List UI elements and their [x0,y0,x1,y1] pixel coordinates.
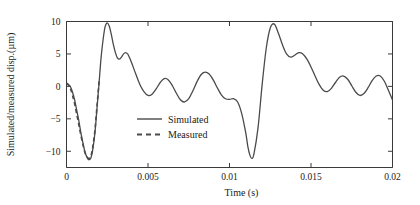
chart-background [0,0,420,205]
x-tick-label: 0 [64,172,69,182]
chart-figure: 00.0050.010.0150.02 −10−50510 SimulatedM… [0,0,420,205]
x-tick-label: 0.02 [384,172,401,182]
x-tick-label: 0.015 [300,172,322,182]
x-axis-title: Time (s) [225,187,259,199]
line-chart: 00.0050.010.0150.02 −10−50510 SimulatedM… [0,0,420,205]
y-tick-label: 10 [51,17,61,27]
y-tick-label: −10 [46,147,61,157]
y-tick-label: 5 [56,49,61,59]
y-axis-title: Simulated/measured disp.(µm) [5,33,17,157]
y-tick-label: 0 [56,82,61,92]
legend-label-measured: Measured [168,129,207,140]
x-tick-label: 0.005 [137,172,159,182]
y-tick-label: −5 [50,114,60,124]
legend-label-simulated: Simulated [168,114,209,125]
x-tick-label: 0.01 [221,172,238,182]
